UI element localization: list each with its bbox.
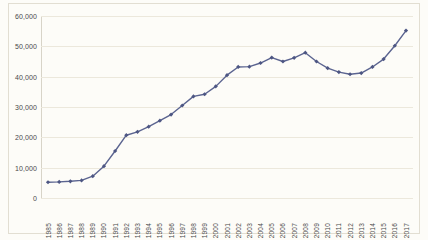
data-point-marker[interactable] [135, 130, 139, 134]
x-axis-tick-label: 2006 [279, 223, 286, 238]
x-axis-tick-label: 2011 [335, 223, 342, 238]
x-axis-tick-label: 2013 [358, 223, 365, 238]
x-axis-tick-labels: 1985198619871988198919901991199219931994… [41, 200, 413, 238]
x-axis-tick-label: 1985 [45, 223, 52, 238]
y-axis-tick-label: 30,000 [15, 104, 37, 111]
data-point-marker[interactable] [57, 180, 61, 184]
y-axis-tick-labels: 010,00020,00030,00040,00050,00060,000 [0, 16, 37, 198]
x-axis-tick-label: 2014 [369, 223, 376, 238]
x-axis-tick-label: 2017 [403, 223, 410, 238]
data-point-marker[interactable] [281, 59, 285, 63]
x-axis-tick-label: 1990 [100, 223, 107, 238]
x-axis-tick-label: 2007 [291, 223, 298, 238]
data-point-marker[interactable] [292, 56, 296, 60]
x-axis-tick-label: 2001 [224, 223, 231, 238]
y-axis-tick-label: 0 [33, 195, 37, 202]
x-axis-tick-label: 1992 [123, 223, 130, 238]
x-axis-tick-label: 1991 [112, 223, 119, 238]
chart-container: 010,00020,00030,00040,00050,00060,000 19… [0, 0, 428, 240]
x-axis-tick-label: 2005 [268, 223, 275, 238]
plot-area [41, 16, 413, 198]
x-axis-tick-label: 2012 [347, 223, 354, 238]
x-axis-tick-label: 2015 [380, 223, 387, 238]
x-axis-tick-label: 1994 [145, 223, 152, 238]
y-axis-tick-label: 60,000 [15, 13, 37, 20]
data-series-line [41, 16, 413, 198]
gridline [41, 198, 413, 199]
x-axis-tick-label: 2008 [302, 223, 309, 238]
x-axis-tick-label: 1995 [156, 223, 163, 238]
x-axis-tick-label: 1997 [179, 223, 186, 238]
x-axis-tick-label: 2016 [391, 223, 398, 238]
x-axis-tick-label: 2003 [246, 223, 253, 238]
x-axis-tick-label: 2009 [313, 223, 320, 238]
data-point-marker[interactable] [79, 178, 83, 182]
x-axis-tick-label: 1986 [56, 223, 63, 238]
x-axis-tick-label: 1988 [78, 223, 85, 238]
x-axis-tick-label: 2010 [324, 223, 331, 238]
data-point-marker[interactable] [337, 70, 341, 74]
x-axis-tick-label: 2000 [212, 223, 219, 238]
data-point-marker[interactable] [68, 179, 72, 183]
x-axis-tick-label: 1989 [89, 223, 96, 238]
y-axis-tick-label: 40,000 [15, 73, 37, 80]
x-axis-tick-label: 2002 [235, 223, 242, 238]
x-axis-tick-label: 1987 [67, 223, 74, 238]
data-point-marker[interactable] [46, 180, 50, 184]
y-axis-tick-label: 10,000 [15, 164, 37, 171]
y-axis-tick-label: 50,000 [15, 43, 37, 50]
x-axis-tick-label: 1993 [134, 223, 141, 238]
x-axis-tick-label: 1996 [168, 223, 175, 238]
x-axis-tick-label: 2004 [257, 223, 264, 238]
x-axis-tick-label: 1999 [201, 223, 208, 238]
series-polyline [48, 31, 406, 183]
x-axis-tick-label: 1998 [190, 223, 197, 238]
data-point-marker[interactable] [348, 72, 352, 76]
data-point-marker[interactable] [247, 65, 251, 69]
y-axis-tick-label: 20,000 [15, 134, 37, 141]
